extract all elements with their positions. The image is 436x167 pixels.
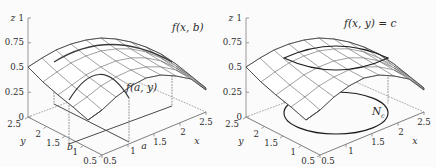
y-tick-left-1: 2 [36,129,41,139]
y-tick-left-4: 0.5 [83,156,97,166]
y-tick-right-2: 1.5 [264,138,278,148]
label-f-x-b: f(x, b) [171,21,204,33]
x-tick-right-0: 0.5 [321,156,335,166]
z-tick-left-2: 0.5 [10,62,24,72]
x-axis-name-right: x [412,135,418,146]
surface-mesh-right [246,38,424,120]
x-tick-right-1: 1 [348,146,353,156]
label-N-c: N c [371,105,385,120]
y-axis-name-left: y [19,135,26,146]
z-tick-left-3: 0.25 [5,87,24,97]
x-tick-left-2: 1.5 [153,137,167,147]
z-tick-right-3: 0.25 [223,87,242,97]
y-marker-b-left: b [67,141,73,152]
y-tick-right-0: 2.5 [225,119,239,129]
label-f-a-y: f(a, y) [125,81,157,93]
z-axis-name-right: z [228,12,234,23]
z-axis-name-left: z [10,12,16,23]
x-tick-right-2: 1.5 [371,137,385,147]
y-axis-name-right: y [237,135,244,146]
x-tick-left-4: 2.5 [199,117,213,127]
x-tick-left-3: 2 [180,127,185,137]
label-f-x-y-equals-c: f(x, y) = c [343,17,396,29]
figure-3d-surface-pair: 1 0.75 0.5 0.25 0 z 2.5 2 1.5 1 0.5 y b [0,0,436,167]
panel-right: 1 0.75 0.5 0.25 0 z 2.5 2 1.5 1 0.5 y [218,0,436,167]
z-tick-left-0: 1 [19,13,24,23]
y-tick-left-3: 1 [73,147,78,157]
y-tick-right-4: 0.5 [301,156,315,166]
plot-left: 1 0.75 0.5 0.25 0 z 2.5 2 1.5 1 0.5 y b [0,0,218,167]
label-N-subscript: c [381,112,385,120]
x-tick-left-1: 1 [130,146,135,156]
z-tick-right-1: 0.75 [223,37,242,47]
z-tick-right-2: 0.5 [228,62,242,72]
x-marker-a-left: a [141,140,147,151]
y-tick-right-3: 1 [291,147,296,157]
z-tick-right-0: 1 [237,13,242,23]
y-tick-left-0: 2.5 [7,119,21,129]
plot-right: 1 0.75 0.5 0.25 0 z 2.5 2 1.5 1 0.5 y [218,0,436,167]
x-tick-left-0: 0.5 [103,156,117,166]
y-tick-left-2: 1.5 [46,138,60,148]
surface-mesh-left [28,38,206,120]
y-tick-right-1: 2 [254,129,259,139]
x-tick-right-4: 2.5 [417,117,431,127]
x-tick-right-3: 2 [398,127,403,137]
x-axis-name-left: x [194,135,200,146]
z-tick-left-1: 0.75 [5,37,24,47]
panel-left: 1 0.75 0.5 0.25 0 z 2.5 2 1.5 1 0.5 y b [0,0,218,167]
